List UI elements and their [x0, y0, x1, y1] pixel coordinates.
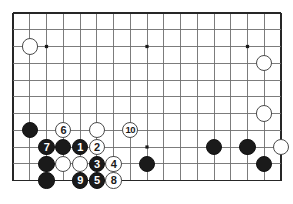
stone-move-label: 10 — [123, 125, 137, 135]
stone-move-label: 4 — [106, 158, 120, 169]
stone-move-4: 4 — [105, 156, 121, 172]
star-point — [145, 145, 148, 148]
stone-white — [22, 38, 38, 54]
stone-move-8: 8 — [105, 172, 121, 188]
stone-black — [239, 139, 255, 155]
stone-move-label: 1 — [73, 141, 87, 152]
stone-black — [139, 156, 155, 172]
star-point — [45, 45, 48, 48]
stone-move-label: 8 — [106, 175, 120, 186]
stone-move-3: 3 — [89, 156, 105, 172]
stone-black — [38, 156, 54, 172]
go-board-diagram: 61071234958 — [0, 0, 293, 204]
stone-move-label: 7 — [39, 141, 53, 152]
star-point — [145, 45, 148, 48]
stone-move-label: 6 — [56, 125, 70, 136]
stone-white — [72, 156, 88, 172]
stone-move-2: 2 — [89, 139, 105, 155]
stone-move-7: 7 — [38, 139, 54, 155]
stone-move-label: 9 — [73, 175, 87, 186]
stone-move-label: 3 — [90, 158, 104, 169]
stone-move-5: 5 — [89, 172, 105, 188]
stone-white — [256, 105, 272, 121]
stone-move-label: 2 — [90, 141, 104, 152]
star-point — [246, 45, 249, 48]
stone-move-9: 9 — [72, 172, 88, 188]
stone-black — [38, 172, 54, 188]
stone-move-label: 5 — [90, 175, 104, 186]
